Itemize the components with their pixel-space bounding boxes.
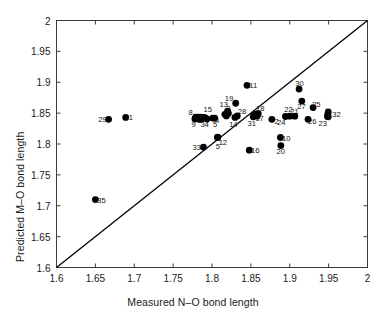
point-label-15: 15	[203, 104, 211, 113]
point-label-24: 24	[277, 118, 285, 127]
y-tick-label-1.9: 1.9	[0, 77, 51, 88]
point-label-12: 12	[219, 137, 227, 146]
point-label-33: 33	[193, 142, 201, 151]
x-tick-label-1.95: 1.95	[319, 273, 338, 284]
point-label-19: 19	[225, 94, 233, 103]
y-axis-title: Predicted M–O bond length	[14, 132, 26, 262]
x-tick-label-2: 2	[365, 273, 371, 284]
point-label-5: 5	[213, 119, 217, 128]
point-label-35: 35	[97, 195, 105, 204]
point-label-28: 28	[238, 107, 246, 116]
point-label-1: 1	[129, 113, 133, 122]
data-point-marker-33	[200, 144, 207, 151]
y-tick-label-1.85: 1.85	[0, 108, 51, 119]
y-tick-label-1.6: 1.6	[0, 262, 51, 273]
point-label-22: 22	[284, 104, 292, 113]
x-tick-label-1.85: 1.85	[241, 273, 260, 284]
point-label-26: 26	[308, 116, 316, 125]
data-points	[92, 82, 332, 203]
x-tick-label-1.75: 1.75	[163, 273, 182, 284]
y-tick-label-2: 2	[0, 15, 51, 26]
point-label-29: 29	[98, 115, 106, 124]
point-label-9: 9	[192, 119, 196, 128]
point-label-25: 25	[312, 99, 320, 108]
point-label-32: 32	[332, 109, 340, 118]
point-label-17: 17	[255, 114, 263, 123]
point-label-20: 20	[277, 147, 285, 156]
x-tick-label-1.9: 1.9	[283, 273, 297, 284]
point-label-8: 8	[188, 107, 192, 116]
point-label-11: 11	[249, 81, 257, 90]
identity-line	[57, 21, 368, 268]
x-axis-title: Measured N–O bond length	[0, 296, 386, 308]
plot-canvas	[0, 0, 386, 316]
point-label-14: 14	[229, 119, 237, 128]
point-label-23: 23	[319, 119, 327, 128]
point-label-27: 27	[297, 102, 305, 111]
data-point-marker-19	[232, 100, 239, 107]
x-tick-label-1.65: 1.65	[86, 273, 105, 284]
x-tick-label-1.6: 1.6	[50, 273, 64, 284]
y-tick-label-1.95: 1.95	[0, 46, 51, 57]
point-label-30: 30	[295, 79, 303, 88]
point-label-16: 16	[251, 146, 259, 155]
point-label-34: 34	[200, 119, 208, 128]
scatter-plot-figure: 1.61.651.71.751.81.851.91.9521.61.651.71…	[0, 0, 386, 316]
point-label-18: 18	[256, 104, 264, 113]
x-tick-label-1.8: 1.8	[205, 273, 219, 284]
point-label-31: 31	[247, 119, 255, 128]
data-point-marker-32	[324, 111, 331, 118]
x-tick-label-1.7: 1.7	[127, 273, 141, 284]
point-label-10: 10	[282, 133, 290, 142]
